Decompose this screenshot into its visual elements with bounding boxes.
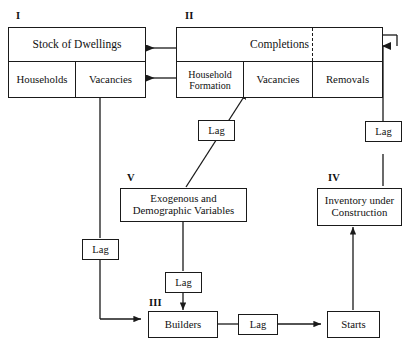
block-label-i: I [16,10,20,21]
cell-vacancies-i: Vacancies [76,62,145,97]
block-label-v: V [127,172,135,183]
completions-dashed-divider [312,28,313,61]
block-starts: Starts [327,311,380,338]
cell-completions: Completions [177,28,382,62]
cell-households: Households [9,62,76,97]
cell-vacancies-ii: Vacancies [244,62,313,97]
block-iii-builders: Builders [148,311,218,338]
block-label-iv: IV [328,172,340,183]
cell-stock-of-dwellings: Stock of Dwellings [9,28,145,62]
block-i: Stock of Dwellings Households Vacancies [8,27,146,98]
lag-box-exogenous-to-builders: Lag [165,272,202,293]
inventory-line-2: Construction [332,207,388,219]
block-iv-inventory-under-construction: Inventory under Construction [317,188,402,226]
block-ii: Completions Household Formation Vacancie… [176,27,383,98]
lag-box-inventory-to-block-ii: Lag [365,121,402,142]
block-label-iii: III [149,297,162,308]
flow-diagram: I Stock of Dwellings Households Vacancie… [0,0,410,342]
household-formation-line-2: Formation [189,80,231,91]
block-v-exogenous-demographic-variables: Exogenous and Demographic Variables [120,188,247,222]
block-label-ii: II [185,10,194,21]
cell-removals: Removals [313,62,382,97]
lag-box-stock-to-builders: Lag [82,239,119,260]
lag-box-builders-to-starts: Lag [238,314,278,335]
cell-household-formation: Household Formation [177,62,244,97]
household-formation-line-1: Household [188,69,231,80]
exogenous-line-2: Demographic Variables [133,205,234,217]
lag-box-exogenous-to-block-ii: Lag [198,120,235,141]
